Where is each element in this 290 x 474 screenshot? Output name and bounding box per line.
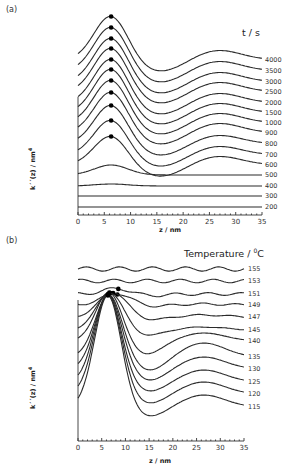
curve-label-145: 145 xyxy=(248,327,260,334)
x-tick-label: 0 xyxy=(76,445,80,452)
curve-label-900: 900 xyxy=(265,130,277,137)
curve-label-149: 149 xyxy=(248,302,260,309)
peak-marker xyxy=(109,36,114,41)
curve-label-115: 115 xyxy=(248,404,260,411)
figure-canvas xyxy=(0,0,290,474)
peak-marker xyxy=(109,25,114,30)
peak-marker xyxy=(109,57,114,62)
panel-b-x-axis-title: z / nm xyxy=(149,457,171,465)
curve-4000 xyxy=(78,17,262,71)
x-tick-label: 30 xyxy=(216,445,225,452)
panel-a-x-axis-title: z / nm xyxy=(159,226,181,234)
curve-500 xyxy=(78,165,262,175)
curve-label-300: 300 xyxy=(265,193,277,200)
curve-label-200: 200 xyxy=(265,204,277,211)
curve-label-2000: 2000 xyxy=(265,100,282,107)
peak-marker xyxy=(109,103,114,108)
curve-label-155: 155 xyxy=(248,266,260,273)
curve-153 xyxy=(78,279,244,282)
x-tick-label: 5 xyxy=(102,219,106,226)
y-title-sup: 4 xyxy=(27,148,33,151)
y-title-text: k´´(z) / nm xyxy=(29,370,37,409)
x-tick-label: 25 xyxy=(192,445,201,452)
peak-marker xyxy=(109,90,114,95)
peak-marker xyxy=(109,134,114,139)
curve-label-125: 125 xyxy=(248,379,260,386)
x-tick-label: 10 xyxy=(121,445,130,452)
peak-marker xyxy=(116,287,121,292)
y-title-sup: 4 xyxy=(27,367,33,370)
x-tick-label: 35 xyxy=(258,219,267,226)
curve-label-135: 135 xyxy=(248,354,260,361)
curve-label-140: 140 xyxy=(248,338,260,345)
peak-marker xyxy=(109,118,114,123)
curve-151 xyxy=(78,288,244,297)
x-tick-label: 30 xyxy=(231,219,240,226)
peak-marker xyxy=(109,46,114,51)
curve-label-1500: 1500 xyxy=(265,110,282,117)
curve-3500 xyxy=(78,28,262,82)
curve-label-1000: 1000 xyxy=(265,120,282,127)
curve-label-3000: 3000 xyxy=(265,79,282,86)
curve-label-153: 153 xyxy=(248,278,260,285)
curve-label-147: 147 xyxy=(248,314,260,321)
x-tick-label: 20 xyxy=(179,219,188,226)
curve-115 xyxy=(78,296,244,416)
curve-label-500: 500 xyxy=(265,172,277,179)
curve-label-3500: 3500 xyxy=(265,68,282,75)
peak-marker xyxy=(109,78,114,83)
curve-label-400: 400 xyxy=(265,183,277,190)
curve-label-700: 700 xyxy=(265,152,277,159)
curve-130 xyxy=(78,295,244,380)
curve-label-600: 600 xyxy=(265,162,277,169)
panel-b-y-axis-title: k´´(z) / nm4 xyxy=(27,367,37,409)
x-tick-label: 35 xyxy=(240,445,249,452)
curve-400 xyxy=(78,184,262,186)
y-title-text: k´´(z) / nm xyxy=(29,151,37,190)
panel-a-y-axis-title: k´´(z) / nm4 xyxy=(27,148,37,190)
x-tick-label: 5 xyxy=(99,445,103,452)
curve-label-151: 151 xyxy=(248,291,260,298)
curve-label-130: 130 xyxy=(248,366,260,373)
curve-label-120: 120 xyxy=(248,391,260,398)
x-tick-label: 10 xyxy=(126,219,135,226)
curve-label-2500: 2500 xyxy=(265,89,282,96)
peak-marker xyxy=(106,293,111,298)
x-tick-label: 25 xyxy=(205,219,214,226)
curve-155 xyxy=(78,267,244,271)
x-tick-label: 15 xyxy=(152,219,161,226)
x-tick-label: 0 xyxy=(76,219,80,226)
curve-700 xyxy=(78,120,262,166)
curve-900 xyxy=(78,93,262,144)
peak-marker xyxy=(109,67,114,72)
curve-label-4000: 4000 xyxy=(265,57,282,64)
x-tick-label: 20 xyxy=(168,445,177,452)
curve-label-800: 800 xyxy=(265,141,277,148)
x-tick-label: 15 xyxy=(145,445,154,452)
peak-marker xyxy=(109,14,114,19)
